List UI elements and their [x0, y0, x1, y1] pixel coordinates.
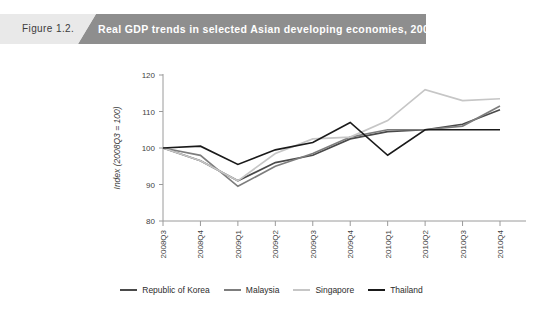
- figure-banner: Figure 1.2. Real GDP trends in selected …: [0, 14, 426, 44]
- series-line-malaysia: [163, 106, 500, 186]
- x-tick-label: 2009Q2: [271, 229, 280, 258]
- y-tick-label: 80: [146, 217, 155, 226]
- figure-container: Figure 1.2. Real GDP trends in selected …: [0, 0, 543, 312]
- y-tick-label: 90: [146, 181, 155, 190]
- series-line-singapore: [163, 90, 500, 181]
- legend-swatch-icon: [368, 289, 385, 292]
- legend-item-label: Singapore: [315, 285, 354, 295]
- x-axis: 2008Q32008Q42009Q12009Q22009Q32009Q42010…: [159, 221, 526, 258]
- y-axis-title: Index (2008Q3 = 100): [112, 106, 122, 189]
- line-chart: 8090100110120 2008Q32008Q42009Q12009Q220…: [0, 52, 543, 312]
- x-tick-label: 2010Q1: [384, 229, 393, 258]
- y-axis: 8090100110120: [142, 71, 163, 226]
- series-lines: [163, 90, 500, 187]
- legend-item-label: Republic of Korea: [142, 285, 210, 295]
- x-tick-label: 2010Q3: [459, 229, 468, 258]
- x-tick-label: 2008Q3: [159, 229, 168, 258]
- x-tick-label: 2008Q4: [196, 229, 205, 258]
- legend-item: Thailand: [368, 285, 423, 295]
- chart-plot-area: 8090100110120 2008Q32008Q42009Q12009Q220…: [0, 52, 543, 312]
- x-tick-label: 2010Q4: [496, 229, 505, 258]
- legend-item: Republic of Korea: [120, 285, 210, 295]
- y-tick-label: 110: [142, 108, 155, 117]
- legend-item: Singapore: [293, 285, 354, 295]
- x-tick-label: 2009Q4: [346, 229, 355, 258]
- x-tick-label: 2009Q3: [309, 229, 318, 258]
- legend-swatch-icon: [120, 289, 137, 292]
- y-axis-title-label: Index (2008Q3 = 100): [112, 106, 122, 189]
- figure-title-label: Real GDP trends in selected Asian develo…: [98, 14, 464, 44]
- legend-swatch-icon: [224, 289, 241, 292]
- legend-item-label: Thailand: [390, 285, 423, 295]
- series-line-thailand: [163, 122, 500, 164]
- legend-item: Malaysia: [224, 285, 280, 295]
- x-tick-label: 2010Q2: [421, 229, 430, 258]
- chart-legend: Republic of KoreaMalaysiaSingaporeThaila…: [0, 282, 543, 298]
- figure-number-label: Figure 1.2.: [22, 14, 74, 44]
- y-tick-label: 120: [142, 71, 156, 80]
- y-tick-label: 100: [142, 144, 156, 153]
- legend-item-label: Malaysia: [246, 285, 280, 295]
- x-tick-label: 2009Q1: [234, 229, 243, 258]
- legend-swatch-icon: [293, 289, 310, 292]
